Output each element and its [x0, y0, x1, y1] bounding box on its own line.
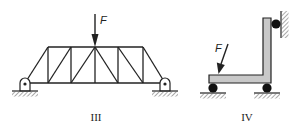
- truss-members: [25, 47, 165, 83]
- figure-label-iv: IV: [241, 111, 253, 123]
- wall-roller-icon: [271, 19, 280, 28]
- right-pin-support-icon: [152, 78, 178, 97]
- diagonal-1: [48, 47, 71, 83]
- diagonal-3: [95, 47, 118, 83]
- force-label-iv: F: [215, 42, 223, 54]
- figure-label-iii: III: [91, 111, 102, 123]
- left-roller-support-icon: [200, 83, 226, 98]
- figure-iii-truss: F III: [12, 14, 178, 123]
- right-end-diagonal: [143, 47, 165, 83]
- wall-icon: [281, 11, 289, 38]
- force-label-iii: F: [100, 14, 108, 26]
- mechanics-diagram: F III F IV: [0, 0, 291, 133]
- left-pin-support-icon: [12, 78, 38, 97]
- force-arrow-icon: [92, 14, 99, 47]
- figure-iv-l-body: F IV: [200, 11, 289, 123]
- diagonal-4: [118, 47, 143, 83]
- diagonal-2: [71, 47, 95, 83]
- right-roller-support-icon: [254, 83, 280, 98]
- left-end-diagonal: [25, 47, 48, 83]
